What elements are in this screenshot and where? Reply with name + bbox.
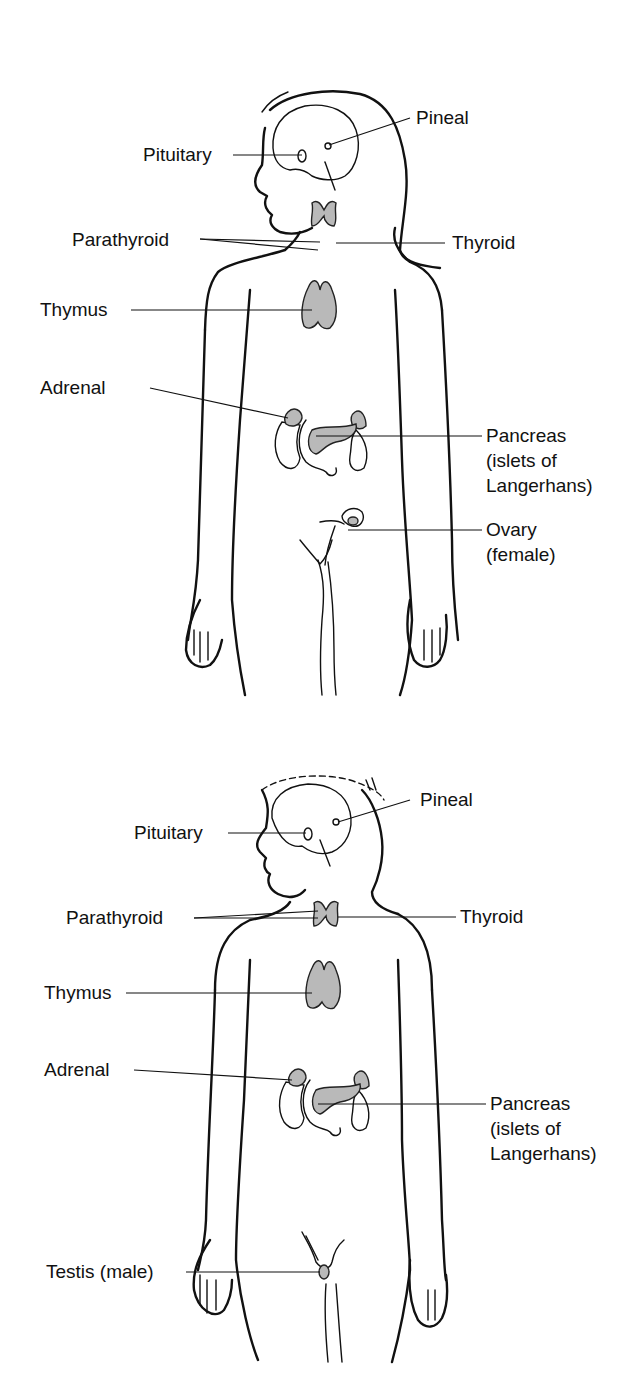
label-adrenal-male: Adrenal xyxy=(44,1058,110,1082)
label-ovary-2: (female) xyxy=(486,543,556,567)
label-thyroid-male: Thyroid xyxy=(460,905,523,929)
label-thymus-female: Thymus xyxy=(40,298,108,322)
label-pancreas-male-2: (islets of xyxy=(490,1117,561,1141)
label-parathyroid-female: Parathyroid xyxy=(72,228,169,252)
label-thyroid-female: Thyroid xyxy=(452,231,515,255)
label-pineal-female: Pineal xyxy=(416,106,469,130)
female-figure xyxy=(131,91,482,695)
label-adrenal-female: Adrenal xyxy=(40,376,106,400)
label-pituitary-male: Pituitary xyxy=(134,821,203,845)
label-pancreas-female-1: Pancreas xyxy=(486,424,566,448)
endocrine-diagram xyxy=(0,0,644,1379)
label-thymus-male: Thymus xyxy=(44,981,112,1005)
male-figure xyxy=(126,776,486,1362)
label-testis: Testis (male) xyxy=(46,1260,154,1284)
label-pancreas-male-1: Pancreas xyxy=(490,1092,570,1116)
label-pancreas-female-2: (islets of xyxy=(486,449,557,473)
label-pancreas-male-3: Langerhans) xyxy=(490,1142,597,1166)
label-pituitary-female: Pituitary xyxy=(143,143,212,167)
label-ovary-1: Ovary xyxy=(486,518,537,542)
label-pineal-male: Pineal xyxy=(420,788,473,812)
label-pancreas-female-3: Langerhans) xyxy=(486,474,593,498)
label-parathyroid-male: Parathyroid xyxy=(66,906,163,930)
